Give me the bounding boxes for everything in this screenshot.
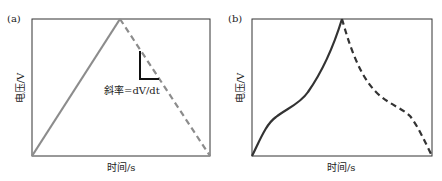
- y-axis-label-a: 电压/V: [14, 72, 26, 103]
- x-axis-label-a: 时间/s: [107, 161, 136, 173]
- figure: (a) 斜率=dV/dt 时间/s 电压/V (b) 时间/s 电压/V: [0, 0, 442, 181]
- y-axis-label-b: 电压/V: [234, 72, 246, 103]
- panel-a: (a) 斜率=dV/dt 时间/s 电压/V: [7, 13, 210, 173]
- panel-label-a: (a): [7, 13, 21, 24]
- charge-curve-b: [252, 19, 342, 156]
- panel-label-b: (b): [228, 13, 242, 24]
- plot-frame-b: [252, 19, 432, 156]
- discharge-curve-b: [342, 19, 432, 156]
- panel-b: (b) 时间/s 电压/V: [228, 13, 432, 173]
- x-axis-label-b: 时间/s: [327, 161, 356, 173]
- slope-annotation: 斜率=dV/dt: [104, 84, 160, 96]
